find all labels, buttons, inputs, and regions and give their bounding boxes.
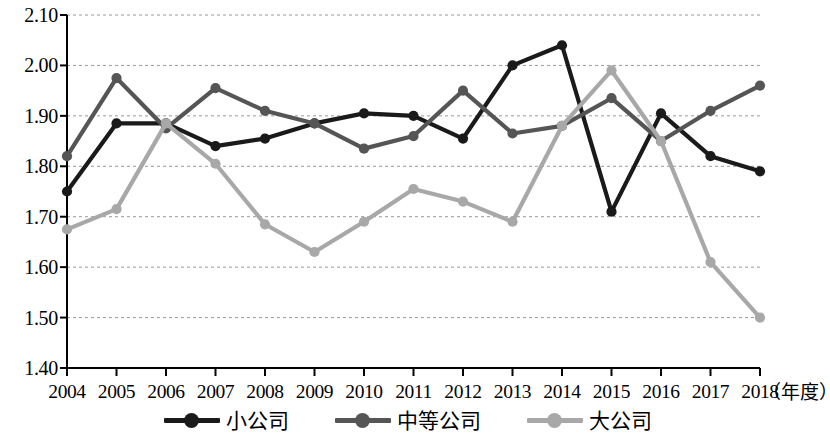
data-point	[755, 166, 765, 176]
data-point	[755, 312, 765, 322]
data-point	[260, 219, 270, 229]
data-point	[557, 40, 567, 50]
legend-item-medium-company[interactable]: 中等公司	[335, 410, 481, 431]
data-point	[62, 224, 72, 234]
data-point	[705, 106, 715, 116]
data-point	[507, 217, 517, 227]
data-point	[309, 118, 319, 128]
x-tick-label: 2004	[40, 382, 94, 402]
data-point	[507, 128, 517, 138]
legend-marker-icon	[164, 411, 220, 429]
x-tick-label: 2017	[684, 382, 738, 402]
data-point	[755, 81, 765, 91]
legend-marker-icon	[527, 411, 583, 429]
legend-label: 中等公司	[397, 410, 481, 431]
data-point	[606, 207, 616, 217]
data-point	[210, 141, 220, 151]
axes	[60, 15, 760, 376]
data-point	[161, 118, 171, 128]
x-tick-label: 2010	[337, 382, 391, 402]
data-point	[408, 131, 418, 141]
x-tick-label: 2011	[387, 382, 441, 402]
data-point	[656, 108, 666, 118]
data-point	[111, 204, 121, 214]
data-point	[458, 196, 468, 206]
data-point	[507, 60, 517, 70]
legend-marker-icon	[335, 411, 391, 429]
data-point	[458, 133, 468, 143]
legend-item-small-company[interactable]: 小公司	[164, 410, 289, 431]
x-tick-label: 2012	[436, 382, 490, 402]
data-point	[606, 93, 616, 103]
x-tick-label: 2006	[139, 382, 193, 402]
x-tick-label: 2005	[90, 382, 144, 402]
data-point	[606, 65, 616, 75]
data-point	[62, 186, 72, 196]
data-point	[309, 247, 319, 257]
data-point	[359, 108, 369, 118]
data-point	[210, 159, 220, 169]
x-tick-label: 2013	[486, 382, 540, 402]
data-point	[260, 106, 270, 116]
series-3	[62, 65, 765, 322]
legend-label: 大公司	[589, 410, 652, 431]
data-point	[359, 144, 369, 154]
data-point	[408, 184, 418, 194]
data-point	[408, 111, 418, 121]
data-point	[557, 121, 567, 131]
chart-legend: 小公司 中等公司 大公司	[0, 401, 816, 439]
legend-item-large-company[interactable]: 大公司	[527, 410, 652, 431]
x-tick-label: 2016	[634, 382, 688, 402]
x-tick-label: 2009	[288, 382, 342, 402]
data-point	[210, 83, 220, 93]
data-point	[359, 217, 369, 227]
data-point	[260, 133, 270, 143]
x-axis-unit-label: （年度）	[762, 383, 830, 402]
x-tick-label: 2007	[189, 382, 243, 402]
data-point	[111, 118, 121, 128]
data-point	[111, 73, 121, 83]
data-point	[705, 151, 715, 161]
legend-label: 小公司	[226, 410, 289, 431]
x-tick-label: 2008	[238, 382, 292, 402]
x-tick-label: 2015	[585, 382, 639, 402]
x-tick-label: 2014	[535, 382, 589, 402]
data-point	[705, 257, 715, 267]
data-point	[458, 86, 468, 96]
data-point	[656, 136, 666, 146]
data-point	[62, 151, 72, 161]
